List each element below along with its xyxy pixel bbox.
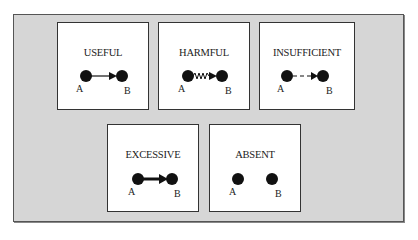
thick-arrow-icon: [108, 125, 200, 213]
panel-excessive: EXCESSIVE A B: [107, 124, 199, 212]
wavy-arrow-icon: [159, 23, 251, 111]
node-b-label: B: [174, 188, 181, 199]
panel-insufficient: INSUFFICIENT A B: [259, 22, 355, 110]
node-b-label: B: [124, 85, 131, 96]
no-link-icon: [210, 125, 302, 213]
node-b-label: B: [326, 85, 333, 96]
panel-useful: USEFUL A B: [57, 22, 149, 110]
dashed-arrow-icon: [260, 23, 356, 111]
panel-harmful: HARMFUL A B: [158, 22, 250, 110]
node-a-label: A: [277, 83, 284, 94]
node-b-label: B: [275, 188, 282, 199]
node-a-label: A: [178, 83, 185, 94]
node-b-label: B: [225, 85, 232, 96]
node-a-label: A: [128, 186, 135, 197]
node-a-label: A: [229, 186, 236, 197]
node-a-label: A: [76, 83, 83, 94]
solid-arrow-icon: [58, 23, 150, 111]
panel-absent: ABSENT A B: [209, 124, 301, 212]
